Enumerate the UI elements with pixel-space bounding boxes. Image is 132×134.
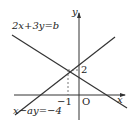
line1-label: 2x+3y=b bbox=[12, 21, 59, 31]
y-tick-label: 2 bbox=[81, 65, 87, 75]
origin-label: O bbox=[82, 97, 90, 107]
line2-label: x−ay=−4 bbox=[13, 106, 62, 116]
x-tick-label: −1 bbox=[57, 97, 72, 107]
y-axis-label: y bbox=[72, 7, 78, 17]
x-axis-label: x bbox=[117, 95, 123, 105]
